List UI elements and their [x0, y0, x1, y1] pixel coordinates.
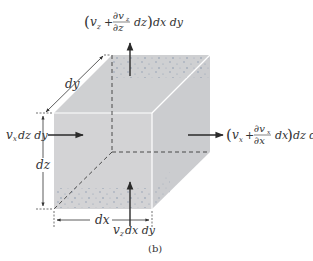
svg-text:): )	[147, 13, 153, 31]
svg-text:+: +	[104, 16, 113, 29]
svg-text:v: v	[232, 128, 239, 142]
svg-text:z: z	[125, 15, 130, 22]
speckle-bottom	[55, 188, 151, 208]
svg-text:∂v: ∂v	[254, 123, 265, 134]
figure-caption: (b)	[148, 243, 162, 254]
svg-text:dz dy: dz dy	[18, 129, 48, 142]
svg-text:x: x	[13, 135, 17, 143]
svg-text:v: v	[90, 15, 97, 29]
label-dz: dz	[36, 158, 51, 172]
svg-text:(: (	[226, 126, 232, 144]
svg-text:z: z	[119, 230, 124, 238]
svg-text:): )	[287, 126, 293, 144]
svg-text:dz dy: dz dy	[293, 129, 313, 142]
label-right-flux: ( v x + ∂v x ∂x dx ) dz dy	[226, 123, 313, 146]
svg-text:dx dy: dx dy	[125, 224, 156, 237]
svg-text:∂z: ∂z	[113, 22, 124, 33]
svg-text:dz: dz	[134, 16, 147, 29]
label-left-flux: v x dz dy	[6, 128, 48, 143]
svg-text:z: z	[96, 23, 101, 31]
label-bottom-flux: v z dx dy	[113, 223, 156, 238]
label-dy: dy	[65, 77, 80, 91]
svg-text:∂v: ∂v	[113, 10, 124, 21]
dimension-dz: dz	[36, 113, 52, 209]
svg-text:v: v	[6, 128, 13, 142]
svg-text:dx dy: dx dy	[153, 16, 184, 29]
speckle-top	[112, 56, 210, 78]
svg-text:x: x	[267, 128, 271, 135]
svg-text:v: v	[113, 223, 120, 237]
control-volume-diagram: dy dz dx ( v z + ∂v z ∂z dz ) dx dy ( v …	[0, 0, 313, 261]
svg-text:x: x	[239, 136, 243, 144]
svg-text:+: +	[245, 129, 254, 142]
label-dx: dx	[95, 213, 110, 227]
svg-text:(: (	[84, 13, 90, 31]
svg-text:∂x: ∂x	[254, 135, 265, 146]
label-top-flux: ( v z + ∂v z ∂z dz ) dx dy	[84, 10, 184, 33]
